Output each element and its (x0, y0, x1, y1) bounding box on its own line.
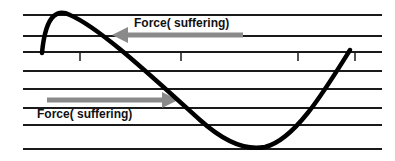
arrow-left-icon (112, 27, 128, 43)
tick-marks (80, 52, 355, 61)
force-label-top: Force( suffering) (134, 16, 229, 30)
force-arrow-bottom (47, 92, 178, 108)
force-label-bottom: Force( suffering) (37, 107, 132, 121)
